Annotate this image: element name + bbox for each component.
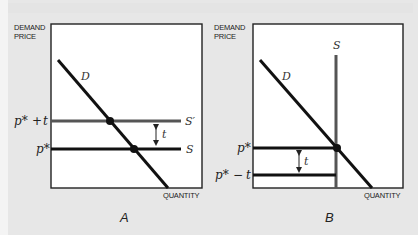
y-axis-label-b-line2: PRICE bbox=[214, 32, 236, 41]
demand-label-a: D bbox=[80, 70, 90, 83]
panel-b: DEMAND PRICE QUANTITY S D t p* p* − t B bbox=[214, 23, 403, 225]
price-label-p-star-b: p* bbox=[237, 141, 251, 155]
tax-incidence-diagram: DEMAND PRICE QUANTITY D S′ S t p* + t p*… bbox=[0, 0, 418, 235]
y-axis-label-b-line1: DEMAND bbox=[214, 23, 246, 32]
y-axis-label-a-line1: DEMAND bbox=[14, 23, 46, 32]
panel-label-b: B bbox=[325, 210, 334, 225]
supply-shifted-label-a: S′ bbox=[185, 115, 196, 128]
price-label-p-star-minus-t-op: − bbox=[233, 168, 243, 182]
equilibrium-point-b bbox=[333, 144, 341, 152]
panel-label-a: A bbox=[119, 210, 129, 225]
tax-label-b: t bbox=[304, 155, 309, 168]
price-label-p-star-plus-t-op: + bbox=[32, 114, 42, 128]
price-label-p-star-minus-t-p: p* bbox=[215, 168, 229, 182]
supply-label-a: S bbox=[186, 143, 194, 156]
x-axis-label-b: QUANTITY bbox=[364, 191, 401, 200]
price-label-p-star-plus-t-t: t bbox=[43, 114, 48, 128]
price-label-p-star-a: p* bbox=[36, 142, 50, 156]
equilibrium-point-after-tax-a bbox=[106, 117, 114, 125]
equilibrium-point-before-tax-a bbox=[130, 145, 138, 153]
y-axis-label-a-line2: PRICE bbox=[14, 32, 36, 41]
supply-label-b: S bbox=[333, 39, 341, 52]
demand-label-b: D bbox=[281, 70, 291, 83]
panel-a: DEMAND PRICE QUANTITY D S′ S t p* + t p*… bbox=[14, 23, 202, 225]
plot-frame-a bbox=[51, 24, 202, 188]
price-label-p-star-minus-t-t: t bbox=[246, 168, 251, 182]
x-axis-label-a: QUANTITY bbox=[163, 191, 200, 200]
tax-label-a: t bbox=[162, 128, 167, 141]
price-label-p-star-plus-t-p: p* bbox=[14, 114, 28, 128]
plot-frame-b bbox=[253, 24, 403, 188]
